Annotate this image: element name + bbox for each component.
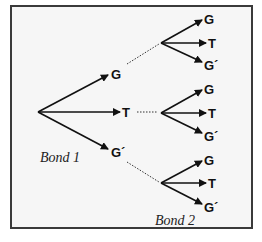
leaf-gp-g-prime: G´ <box>204 200 218 215</box>
tree-diagram: G T G´ G T G´ G T G´ G T G´ Bond 1 Bond … <box>0 0 262 242</box>
leaf-t-g-prime: G´ <box>204 129 218 144</box>
bond2-arrows <box>161 20 206 204</box>
leaf-gp-g: G <box>204 153 214 168</box>
leaf-g-t: T <box>208 36 216 51</box>
leaf-t-t: T <box>208 106 216 121</box>
node-t: T <box>122 105 130 120</box>
leaf-t-g: G <box>204 82 214 97</box>
leaf-g-g: G <box>204 12 214 27</box>
bond1-label: Bond 1 <box>40 150 80 165</box>
node-g-prime: G´ <box>111 145 125 160</box>
node-g: G <box>111 67 121 82</box>
leaf-g-g-prime: G´ <box>204 58 218 73</box>
leaf-gp-t: T <box>208 176 216 191</box>
bond1-arrows <box>38 75 120 149</box>
dotted-connectors <box>127 44 159 182</box>
bond2-label: Bond 2 <box>155 213 195 228</box>
